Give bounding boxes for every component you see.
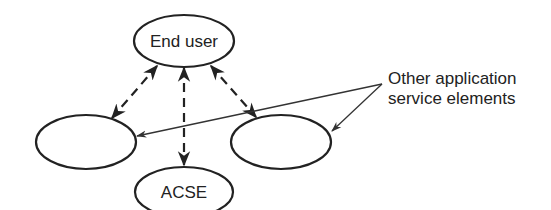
callout-line-2: service elements [388, 89, 516, 108]
callout-pointer-right [332, 84, 382, 131]
edge-enduser-left [112, 66, 157, 118]
edge-enduser-right [211, 66, 256, 117]
acse-label: ACSE [161, 183, 207, 202]
end-user-label: End user [150, 32, 218, 51]
callout-line-1: Other application [388, 69, 517, 88]
node-left-ase[interactable] [36, 115, 136, 169]
node-acse[interactable]: ACSE [135, 167, 233, 210]
node-end-user[interactable]: End user [134, 15, 234, 67]
right-ase-ellipse [231, 115, 331, 169]
left-ase-ellipse [36, 115, 136, 169]
diagram-canvas: End user ACSE Other application service … [0, 0, 551, 210]
node-right-ase[interactable] [231, 115, 331, 169]
